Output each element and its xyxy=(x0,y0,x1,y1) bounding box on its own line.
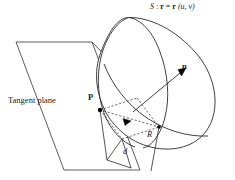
surface-parameters: (u, v) xyxy=(176,2,195,11)
diagram-canvas xyxy=(0,0,235,180)
surface-tangent-plane-diagram: S : r = r (u, v) Tangent plane n P R d xyxy=(0,0,235,180)
base-triangle-left-edge xyxy=(107,139,122,160)
surface-equation-label: S : r = r (u, v) xyxy=(150,3,195,11)
point-r-dot xyxy=(157,125,161,129)
tangent-plane-label: Tangent plane xyxy=(8,96,56,105)
point-p-label: P xyxy=(88,93,93,102)
distance-d-label: d xyxy=(123,147,127,156)
point-p-dot xyxy=(98,108,102,112)
point-r-label: R xyxy=(147,130,152,139)
base-triangle-bottom-edge xyxy=(107,160,131,168)
normal-vector-label: n xyxy=(182,62,187,71)
